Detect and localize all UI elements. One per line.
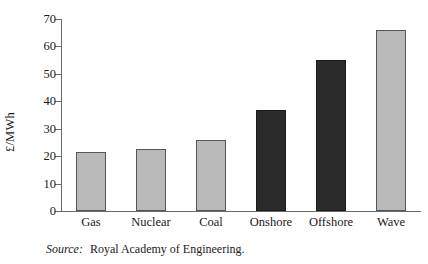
category-label-coal: Coal <box>181 216 241 229</box>
y-tick-label: 50 <box>44 68 57 81</box>
y-tick-label: 0 <box>50 205 56 218</box>
category-label-wave: Wave <box>361 216 421 229</box>
category-label-gas: Gas <box>61 216 121 229</box>
x-axis-line <box>55 211 421 212</box>
source-label: Source: <box>46 242 83 256</box>
bar-onshore <box>256 110 286 211</box>
y-tick-label: 40 <box>44 95 57 108</box>
plot-area: 010203040506070 <box>61 19 421 211</box>
category-label-onshore: Onshore <box>241 216 301 229</box>
y-tick-label: 20 <box>44 150 57 163</box>
y-tick-label: 10 <box>44 177 57 190</box>
category-label-offshore: Offshore <box>301 216 361 229</box>
bar-offshore <box>316 60 346 211</box>
source-note: Source:Royal Academy of Engineering. <box>46 243 245 255</box>
bar-nuclear <box>136 149 166 211</box>
bar-coal <box>196 140 226 211</box>
bar-gas <box>76 152 106 211</box>
source-text: Royal Academy of Engineering. <box>90 242 245 256</box>
bar-wave <box>376 30 406 211</box>
bar-series <box>61 19 421 211</box>
y-tick-label: 60 <box>44 40 57 53</box>
y-tick-label: 70 <box>44 13 57 26</box>
bar-chart-figure: £/MWh 010203040506070 GasNuclearCoalOnsh… <box>0 0 428 264</box>
category-label-nuclear: Nuclear <box>121 216 181 229</box>
y-tick-label: 30 <box>44 122 57 135</box>
